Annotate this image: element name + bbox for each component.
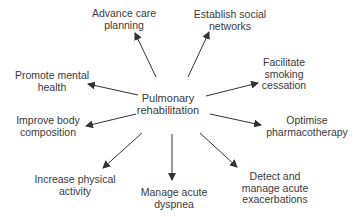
node-line: dyspnea [141,199,208,211]
node-line: Manage acute [141,187,208,199]
arrow-advance-care [135,33,156,77]
node-line: Facilitate [262,57,306,69]
node-line: composition [16,127,80,139]
arrow-mental [88,84,138,95]
node-promote-mental-health: Promote mental health [15,70,89,93]
node-line: Improve body [16,115,80,127]
node-line: Establish social [194,9,266,21]
node-line: Increase physical [34,174,115,186]
center-line2: rehabilitation [137,104,199,116]
center-line1: Pulmonary [137,92,199,104]
arrow-physical [103,133,142,168]
node-line: activity [34,186,115,198]
node-manage-acute-dyspnea: Manage acute dyspnea [141,187,208,210]
node-line: cessation [262,80,306,92]
node-line: Advance care [92,8,156,20]
arrow-body [86,114,136,126]
node-advance-care-planning: Advance care planning [92,8,156,31]
node-line: pharmacotherapy [266,127,348,139]
node-line: exacerbations [242,194,309,206]
node-facilitate-smoking-cessation: Facilitate smoking cessation [262,57,306,92]
node-line: Optimise [266,115,348,127]
node-line: networks [194,21,266,33]
node-improve-body-composition: Improve body composition [16,115,80,138]
arrow-social [188,32,209,77]
arrow-exacerbations [200,133,237,167]
node-line: Detect and [242,171,309,183]
node-line: Promote mental [15,70,89,82]
node-line: planning [92,20,156,32]
node-detect-manage-exacerbations: Detect and manage acute exacerbations [242,171,309,206]
node-increase-physical-activity: Increase physical activity [34,174,115,197]
node-line: health [15,82,89,94]
node-optimise-pharmacotherapy: Optimise pharmacotherapy [266,115,348,138]
arrow-pharma [210,114,261,125]
node-establish-social-networks: Establish social networks [194,9,266,32]
center-node-pulmonary-rehabilitation: Pulmonary rehabilitation [137,92,199,116]
arrow-smoking [206,83,258,96]
